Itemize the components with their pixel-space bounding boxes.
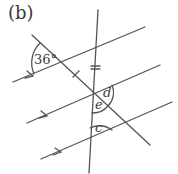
angle-label-c: c (95, 121, 102, 134)
angle-label-e: e (95, 98, 103, 111)
parallel-line-bottom (41, 102, 172, 159)
transversal-vertical (89, 10, 98, 173)
angle-label-d: d (103, 86, 111, 99)
part-label: (b) (8, 4, 34, 22)
parallel-lines-diagram (0, 0, 178, 174)
angle-label-36: 36° (34, 53, 57, 66)
